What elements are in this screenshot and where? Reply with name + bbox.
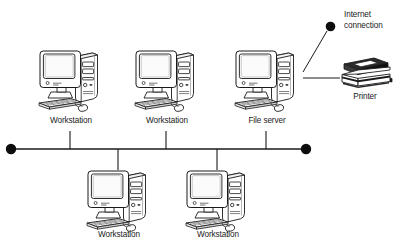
connection-node-dot bbox=[326, 22, 336, 32]
network-diagram: Workstation Workstation File server Work… bbox=[0, 0, 413, 250]
bus-terminator-right bbox=[301, 144, 311, 154]
node-label-workstation-3: Workstation bbox=[88, 230, 150, 240]
desktop-computer-icon[interactable] bbox=[87, 171, 146, 232]
desktop-computer-icon[interactable] bbox=[135, 51, 194, 112]
printer-icon[interactable] bbox=[342, 58, 392, 88]
node-label-file-server: File server bbox=[236, 116, 298, 126]
desktop-computer-icon[interactable] bbox=[186, 171, 245, 232]
peripheral-label-printer: Printer bbox=[341, 92, 389, 102]
desktop-computer-icon[interactable] bbox=[39, 51, 98, 112]
internet-label-line-1: Internet bbox=[344, 10, 371, 19]
internet-link-line bbox=[303, 31, 327, 72]
external-label-internet-connection: Internet connection bbox=[344, 10, 410, 31]
node-label-workstation-4: Workstation bbox=[187, 230, 249, 240]
node-label-workstation-1: Workstation bbox=[40, 116, 102, 126]
internet-label-line-2: connection bbox=[344, 21, 383, 30]
bus-terminator-left bbox=[6, 144, 16, 154]
desktop-computer-icon[interactable] bbox=[235, 51, 294, 112]
node-label-workstation-2: Workstation bbox=[136, 116, 198, 126]
